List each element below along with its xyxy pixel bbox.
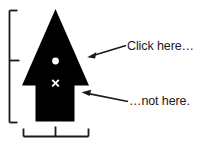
callout-arrow-not-here-line xyxy=(86,93,128,101)
arrow-shape xyxy=(22,9,89,122)
callout-label-not-here: …not here. xyxy=(129,95,190,108)
arrow-diagram xyxy=(0,0,197,143)
diagram-canvas: Click here… …not here. xyxy=(0,0,197,143)
callout-arrow-click-here-head xyxy=(87,52,96,58)
arrow-stem xyxy=(36,84,75,122)
callout-label-click-here: Click here… xyxy=(127,40,194,53)
callout-arrow-click-here-line xyxy=(92,46,127,57)
arrowhead-triangle xyxy=(22,9,89,86)
width-bracket xyxy=(24,127,89,137)
callout-arrow-not-here xyxy=(82,90,129,102)
callout-arrow-click-here xyxy=(87,46,126,59)
height-bracket xyxy=(10,11,20,123)
callout-arrow-not-here-head xyxy=(82,90,92,96)
hotspot-dot-icon xyxy=(52,58,59,65)
